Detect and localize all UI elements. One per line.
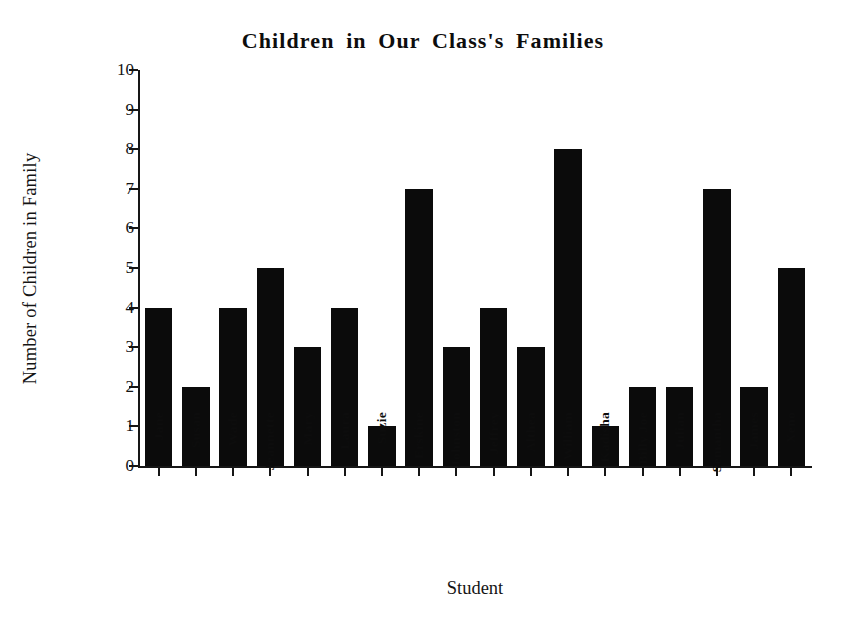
x-axis-label-text: Suzie [374, 412, 390, 444]
x-axis-label: Althea [522, 412, 540, 512]
x-axis-label-text: Kadisha [597, 412, 613, 462]
x-axis-label-text: Billy Joe [635, 412, 651, 465]
x-axis-label-text: William [560, 412, 576, 460]
x-axis-label: Erskine [410, 412, 428, 512]
x-axis-label: William [559, 412, 577, 512]
y-axis-tick-label: 6 [126, 218, 135, 238]
x-axis-label: Xeno [782, 412, 800, 512]
y-axis-tick-label: 0 [126, 456, 135, 476]
x-axis-label: Jeannette [261, 412, 279, 512]
y-axis-title: Number of Children in Family [21, 152, 42, 384]
x-axis-label-text: Wade [225, 412, 241, 446]
y-axis-tick-label: 8 [126, 139, 135, 159]
y-axis-title-container: Number of Children in Family [14, 70, 48, 466]
y-axis-tick-label: 9 [126, 100, 135, 120]
x-axis-title: Student [140, 578, 810, 599]
y-axis-line [138, 70, 140, 466]
y-axis-tick-label: 4 [126, 298, 135, 318]
x-axis-label-text: Xeno [783, 412, 799, 443]
x-axis-label-text: Susan [188, 412, 204, 448]
y-axis-tick-label: 3 [126, 337, 135, 357]
x-axis-label: James [745, 412, 763, 512]
x-axis-label-text: Semantha [709, 412, 725, 472]
x-axis-label-text: Johnston [448, 412, 464, 467]
y-axis-tick-label: 2 [126, 377, 135, 397]
bar-chart: Children in Our Class's Families Number … [0, 0, 846, 631]
x-axis-label-text: Julian [672, 412, 688, 450]
x-axis-label: Billy Joe [634, 412, 652, 512]
chart-title: Children in Our Class's Families [0, 28, 846, 54]
x-axis-label-text: Mary [300, 412, 316, 445]
x-axis-label-text: Jeffrey [486, 412, 502, 454]
x-axis-label: Mary [299, 412, 317, 512]
x-axis-label-text: Laura [337, 412, 353, 450]
x-axis-label-text: Erskine [411, 412, 427, 459]
x-axis-label-text: Jeannette [262, 412, 278, 470]
x-axis-label: Suzie [373, 412, 391, 512]
x-axis-label: Wade [224, 412, 242, 512]
x-axis-label: Jeffrey [485, 412, 503, 512]
x-axis-label: Susan [187, 412, 205, 512]
x-axis-label: Semantha [708, 412, 726, 512]
x-axis-label-text: James [746, 412, 762, 450]
y-axis-tick-label: 5 [126, 258, 135, 278]
x-axis-label-text: Jane [151, 412, 167, 440]
plot-area: 012345678910 [140, 70, 810, 466]
x-axis-label: Julian [671, 412, 689, 512]
x-axis-label: Jane [150, 412, 168, 512]
x-axis-label: Johnston [447, 412, 465, 512]
x-axis-label: Laura [336, 412, 354, 512]
y-axis-tick-label: 7 [126, 179, 135, 199]
x-axis-label-text: Althea [523, 412, 539, 452]
x-axis-label: Kadisha [596, 412, 614, 512]
y-axis-tick-label: 1 [126, 416, 135, 436]
y-axis-tick-label: 10 [117, 60, 134, 80]
